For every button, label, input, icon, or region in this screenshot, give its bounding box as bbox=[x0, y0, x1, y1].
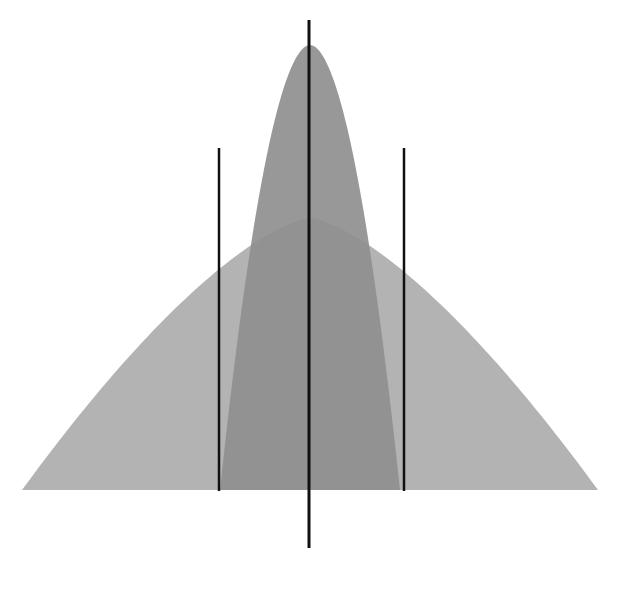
diagram-canvas bbox=[0, 0, 636, 589]
distribution-diagram bbox=[0, 0, 636, 589]
